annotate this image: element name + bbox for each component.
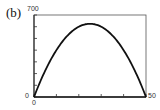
plot-frame: [34, 15, 146, 97]
plot-area: [0, 0, 160, 110]
data-curve: [34, 24, 146, 97]
